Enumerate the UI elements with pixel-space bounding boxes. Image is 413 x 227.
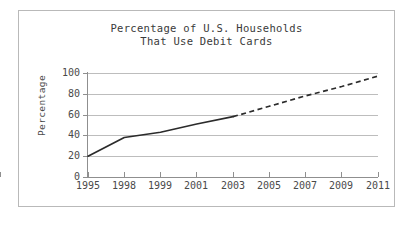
chart-figure: Percentage of U.S. Households That Use D… <box>0 0 413 227</box>
solid-line-series <box>88 117 233 157</box>
dashed-line-series <box>233 76 378 117</box>
series-layer <box>0 0 413 227</box>
